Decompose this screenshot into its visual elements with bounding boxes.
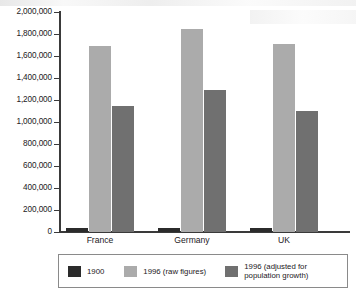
bar-group xyxy=(66,12,134,232)
bar xyxy=(273,44,295,232)
x-axis-category-label: UK xyxy=(250,235,318,245)
bar-group xyxy=(250,12,318,232)
legend-swatch xyxy=(225,266,238,277)
bar xyxy=(296,111,318,232)
y-axis-tick-labels: 2,000,0001,800,0001,600,0001,400,0001,20… xyxy=(0,0,52,294)
legend-item: 1900 xyxy=(68,255,104,287)
bar xyxy=(204,90,226,232)
bar xyxy=(250,228,272,232)
y-axis-tick-label: 1,800,000 xyxy=(0,29,52,38)
y-axis-tick-label: 1,200,000 xyxy=(0,95,52,104)
bar xyxy=(158,228,180,232)
y-axis-tick-label: 2,000,000 xyxy=(0,7,52,16)
legend-label: 1996 (raw figures) xyxy=(143,267,206,276)
y-axis-tick-label: 400,000 xyxy=(0,183,52,192)
bar-chart-figure: 2,000,0001,800,0001,600,0001,400,0001,20… xyxy=(0,0,356,294)
legend-swatch xyxy=(68,266,81,277)
y-axis-tick-label: 1,400,000 xyxy=(0,73,52,82)
legend-item: 1996 (raw figures) xyxy=(124,255,206,287)
chart-legend: 19001996 (raw figures)1996 (adjusted for… xyxy=(58,254,348,288)
legend-swatch xyxy=(124,266,137,277)
bar xyxy=(112,106,134,232)
x-axis-category-label: France xyxy=(66,235,134,245)
legend-label: 1900 xyxy=(87,267,104,276)
y-axis-tick-label: 0 xyxy=(0,227,52,236)
y-axis-tick-label: 200,000 xyxy=(0,205,52,214)
scan-artifact xyxy=(0,0,356,6)
plot-area xyxy=(60,12,350,232)
bar xyxy=(181,29,203,232)
legend-label: 1996 (adjusted for population growth) xyxy=(244,262,308,280)
legend-item: 1996 (adjusted for population growth) xyxy=(225,255,308,287)
bar xyxy=(66,228,88,232)
bar-group xyxy=(158,12,226,232)
y-axis-tick-label: 1,600,000 xyxy=(0,51,52,60)
y-axis-tick-label: 800,000 xyxy=(0,139,52,148)
y-axis-tick-label: 600,000 xyxy=(0,161,52,170)
bar xyxy=(89,46,111,232)
x-axis-category-label: Germany xyxy=(158,235,226,245)
y-axis-tick-label: 1,000,000 xyxy=(0,117,52,126)
